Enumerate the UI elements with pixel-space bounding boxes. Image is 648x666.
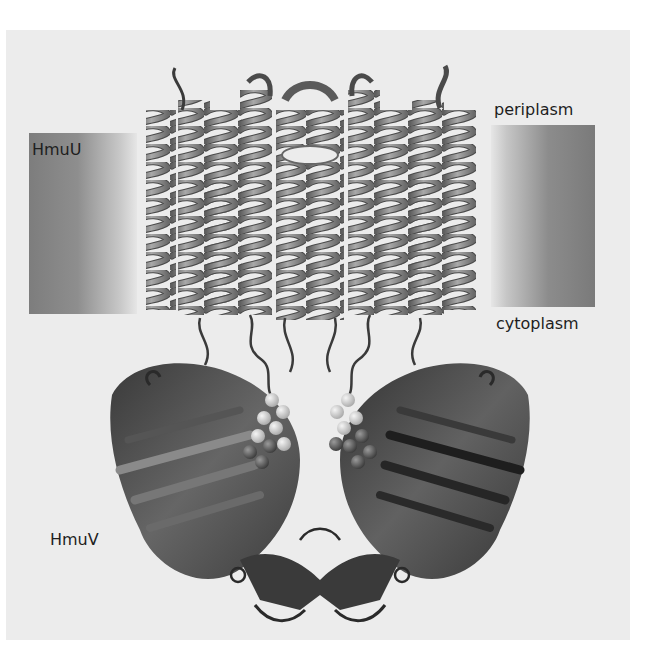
hmuu-helices-left xyxy=(146,68,272,315)
hmuu-helices-center xyxy=(276,85,344,320)
hmuv-nbd-right xyxy=(340,363,530,579)
cytoplasm-label: cytoplasm xyxy=(496,314,579,333)
hmuu-label: HmuU xyxy=(32,140,81,159)
hmuv-label: HmuV xyxy=(50,530,99,549)
hmuu-helices-right xyxy=(348,66,476,315)
periplasm-label: periplasm xyxy=(494,100,573,119)
